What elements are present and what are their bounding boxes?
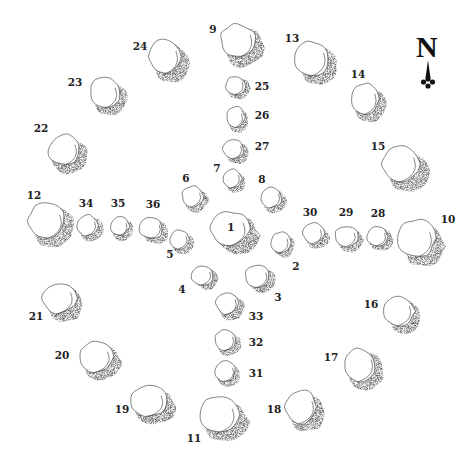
stone-body <box>91 77 120 107</box>
fleur-icon <box>421 76 435 88</box>
stone-body <box>77 214 98 236</box>
stone-label-23: 23 <box>68 76 83 88</box>
stone-label-34: 34 <box>79 197 94 209</box>
stone-21 <box>41 284 82 322</box>
stone-label-2: 2 <box>292 260 299 272</box>
stone-2 <box>271 232 295 258</box>
stone-label-8: 8 <box>258 173 265 185</box>
stone-26 <box>227 106 248 132</box>
stone-12 <box>27 203 74 248</box>
stone-label-1: 1 <box>227 221 234 233</box>
stone-label-26: 26 <box>255 109 270 121</box>
stone-14 <box>352 83 387 122</box>
stone-25 <box>226 77 251 100</box>
stone-35 <box>111 216 133 241</box>
stone-body <box>215 361 235 382</box>
stone-6 <box>182 186 209 213</box>
stone-body <box>367 227 388 247</box>
stone-body <box>295 41 328 76</box>
stone-label-35: 35 <box>111 197 126 209</box>
stone-body <box>345 348 375 382</box>
stone-label-4: 4 <box>178 283 185 295</box>
stone-label-10: 10 <box>441 213 456 225</box>
stone-label-5: 5 <box>166 248 173 260</box>
stone-label-20: 20 <box>55 349 70 361</box>
stone-body <box>221 23 256 56</box>
stone-17 <box>345 348 383 391</box>
stone-36 <box>139 217 168 243</box>
stone-label-17: 17 <box>324 351 339 363</box>
stone-27 <box>222 140 249 164</box>
stone-3 <box>245 265 275 293</box>
stone-label-14: 14 <box>351 68 366 80</box>
stone-33 <box>215 293 244 320</box>
stone-8 <box>261 187 287 213</box>
stone-label-21: 21 <box>29 310 44 322</box>
stone-label-11: 11 <box>187 432 202 444</box>
stone-label-3: 3 <box>274 291 281 303</box>
stone-label-33: 33 <box>249 310 264 322</box>
north-label: N <box>416 30 438 63</box>
stone-label-28: 28 <box>371 207 386 219</box>
stone-1 <box>210 212 261 255</box>
stone-15 <box>381 146 430 192</box>
stone-label-12: 12 <box>27 189 42 201</box>
north-arrow: N <box>416 30 438 89</box>
stone-19 <box>131 385 176 424</box>
stone-label-22: 22 <box>34 122 49 134</box>
stone-label-25: 25 <box>255 80 270 92</box>
stone-4 <box>191 266 218 290</box>
stone-30 <box>302 222 330 248</box>
stone-11 <box>200 397 250 441</box>
stone-22 <box>48 134 87 174</box>
stone-body <box>245 265 268 287</box>
stone-28 <box>367 227 394 251</box>
stone-label-24: 24 <box>133 40 148 52</box>
stone-10 <box>398 219 446 266</box>
stone-32 <box>215 329 241 355</box>
stone-label-9: 9 <box>209 23 216 35</box>
stone-31 <box>215 361 241 387</box>
stone-label-16: 16 <box>364 298 379 310</box>
stone-body <box>170 230 189 249</box>
stone-18 <box>284 390 324 431</box>
stone-label-32: 32 <box>249 336 264 348</box>
stone-7 <box>223 169 245 193</box>
stone-24 <box>148 39 189 82</box>
stone-circle-diagram: 1234567891011121314151617181920212223242… <box>0 0 468 472</box>
stone-body <box>131 385 167 416</box>
stone-16 <box>384 296 420 333</box>
stone-label-36: 36 <box>146 198 161 210</box>
stone-label-13: 13 <box>285 32 300 44</box>
stone-29 <box>335 227 364 253</box>
stones-layer <box>27 23 446 440</box>
stone-body <box>139 217 162 238</box>
stone-label-29: 29 <box>339 206 354 218</box>
stone-9 <box>221 23 265 67</box>
stone-body <box>48 134 79 164</box>
stone-label-27: 27 <box>255 140 270 152</box>
stone-34 <box>77 214 104 241</box>
stone-20 <box>80 341 123 380</box>
stone-body <box>398 219 436 256</box>
stone-13 <box>295 41 337 84</box>
stone-label-19: 19 <box>115 403 130 415</box>
stone-body <box>191 266 212 285</box>
stone-label-18: 18 <box>267 403 282 415</box>
stone-label-30: 30 <box>303 206 318 218</box>
stone-label-31: 31 <box>249 367 264 379</box>
stone-label-15: 15 <box>371 140 386 152</box>
stone-label-6: 6 <box>182 172 189 184</box>
stone-label-7: 7 <box>213 162 220 174</box>
stone-23 <box>91 77 128 115</box>
stone-body <box>27 203 64 238</box>
